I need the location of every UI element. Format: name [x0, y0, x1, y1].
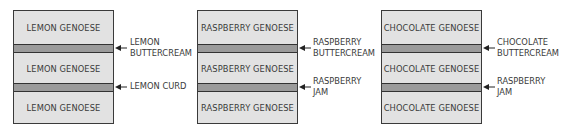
- arrow-left-icon: [483, 84, 495, 90]
- filling-label: RASPBERRYJAM: [497, 76, 545, 98]
- filling-layer: [198, 44, 297, 53]
- lemon-cake-diagram: LEMON GENOESE LEMON GENOESE LEMON GENOES…: [13, 10, 114, 124]
- arrow-left-icon: [299, 45, 311, 51]
- cake-layer: RASPBERRY GENOESE: [198, 54, 297, 84]
- arrow-left-icon: [115, 84, 127, 90]
- layer-label: CHOCOLATE GENOESE: [384, 23, 480, 33]
- layer-label: CHOCOLATE GENOESE: [384, 64, 480, 74]
- layer-label: CHOCOLATE GENOESE: [384, 103, 480, 113]
- cake-layer: CHOCOLATE GENOESE: [382, 93, 481, 123]
- cake-layer: LEMON GENOESE: [14, 93, 113, 123]
- filling-layer: [14, 83, 113, 92]
- layer-label: LEMON GENOESE: [27, 103, 101, 113]
- filling-label: RASPBERRYBUTTERCREAM: [313, 37, 375, 59]
- cake-layer: LEMON GENOESE: [14, 11, 113, 44]
- layer-label: RASPBERRY GENOESE: [201, 103, 294, 113]
- chocolate-cake-diagram: CHOCOLATE GENOESE CHOCOLATE GENOESE CHOC…: [381, 10, 482, 124]
- cake-layer: RASPBERRY GENOESE: [198, 93, 297, 123]
- arrow-left-icon: [483, 45, 495, 51]
- layer-label: LEMON GENOESE: [27, 23, 101, 33]
- filling-layer: [198, 83, 297, 92]
- filling-label: CHOCOLATEBUTTERCREAM: [497, 37, 559, 59]
- filling-label: LEMONBUTTERCREAM: [130, 37, 192, 59]
- layer-label: LEMON GENOESE: [27, 64, 101, 74]
- cake-layer: RASPBERRY GENOESE: [198, 11, 297, 44]
- cake-layer: CHOCOLATE GENOESE: [382, 54, 481, 84]
- filling-layer: [14, 44, 113, 53]
- layer-label: RASPBERRY GENOESE: [201, 64, 294, 74]
- filling-layer: [382, 83, 481, 92]
- filling-label: LEMON CURD: [130, 81, 186, 92]
- arrow-left-icon: [115, 45, 127, 51]
- cake-layer: LEMON GENOESE: [14, 54, 113, 84]
- arrow-left-icon: [299, 84, 311, 90]
- layer-label: RASPBERRY GENOESE: [201, 23, 294, 33]
- cake-layer: CHOCOLATE GENOESE: [382, 11, 481, 44]
- raspberry-cake-diagram: RASPBERRY GENOESE RASPBERRY GENOESE RASP…: [197, 10, 298, 124]
- filling-label: RASPBERRYJAM: [313, 76, 361, 98]
- filling-layer: [382, 44, 481, 53]
